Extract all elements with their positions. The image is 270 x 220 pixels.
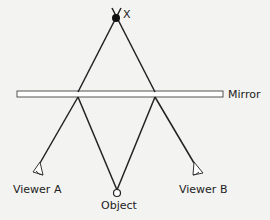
viewer-a-eye-icon [33, 162, 43, 175]
mirror-ray-diagram: X Mirror Viewer A Viewer B Object [0, 0, 270, 220]
object-label: Object [101, 200, 137, 211]
ray-to-viewer-b [155, 97, 194, 163]
ray-to-viewer-a [40, 97, 78, 163]
ray-object-to-right-point [117, 97, 155, 190]
viewer-b-eye-icon [193, 162, 203, 175]
image-x-label: X [123, 9, 131, 20]
image-point-x [112, 14, 120, 22]
ray-object-to-left-point [78, 97, 117, 190]
viewer-a-label: Viewer A [13, 184, 61, 195]
object-circle [114, 190, 121, 197]
mirror-label: Mirror [228, 89, 260, 100]
mirror-bar [17, 91, 223, 97]
viewer-b-label: Viewer B [179, 184, 227, 195]
